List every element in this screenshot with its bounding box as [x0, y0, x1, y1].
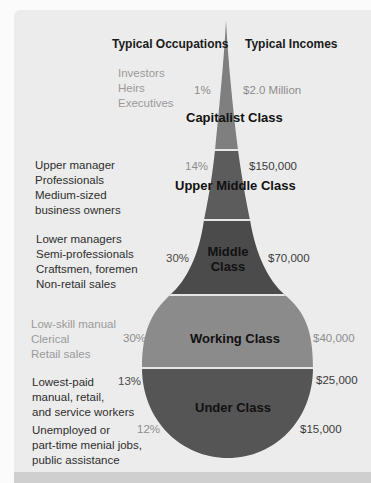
label-under-class: Under Class [195, 400, 271, 415]
label-middle-class: Middle Class [200, 244, 256, 274]
percent-under-lowest-paid: 13% [118, 375, 141, 387]
label-upper-middle-class: Upper Middle Class [175, 178, 296, 193]
label-working-class: Working Class [190, 331, 280, 346]
income-under-unemployed: $15,000 [300, 423, 342, 435]
occupations-capitalist: Investors Heirs Executives [118, 66, 174, 111]
label-capitalist-class: Capitalist Class [186, 110, 283, 125]
percent-upper-middle: 14% [185, 160, 208, 172]
occupations-under-unemployed: Unemployed or part-time menial jobs, pub… [32, 423, 142, 468]
band-capitalist [0, 0, 371, 150]
occupations-working: Low-skill manual Clerical Retail sales [31, 317, 116, 362]
occupations-middle: Lower managers Semi-professionals Crafts… [36, 232, 138, 292]
income-working: $40,000 [313, 332, 355, 344]
header-occupations: Typical Occupations [112, 37, 228, 51]
income-under-lowest-paid: $25,000 [316, 374, 358, 386]
header-incomes: Typical Incomes [245, 37, 337, 51]
income-upper-middle: $150,000 [249, 160, 297, 172]
percent-middle: 30% [166, 252, 189, 264]
income-middle: $70,000 [268, 252, 310, 264]
percent-under-unemployed: 12% [137, 423, 160, 435]
income-capitalist: $2.0 Million [243, 84, 301, 96]
percent-working: 30% [123, 332, 146, 344]
occupations-upper-middle: Upper manager Professionals Medium-sized… [35, 158, 121, 218]
percent-capitalist: 1% [194, 84, 211, 96]
